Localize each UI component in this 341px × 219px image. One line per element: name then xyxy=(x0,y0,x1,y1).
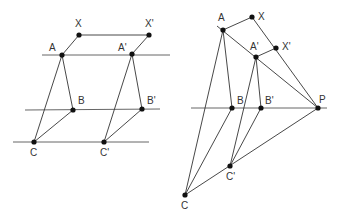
point-a xyxy=(220,27,225,32)
point-p xyxy=(315,105,320,110)
point-ap xyxy=(129,51,134,56)
segment-a-c xyxy=(34,55,62,142)
point-label-a: A xyxy=(49,42,56,53)
segment-ap-bp xyxy=(132,54,142,109)
point-xp xyxy=(273,45,278,50)
point-label-x: X xyxy=(75,18,82,29)
segment-b-c xyxy=(185,108,232,195)
point-a xyxy=(59,52,64,57)
point-b xyxy=(229,105,234,110)
right-diagram-central-projection: AXA'X'BB'PC'C xyxy=(181,11,327,211)
diagram-stage: XX'AA'BB'CC' AXA'X'BB'PC'C xyxy=(0,0,341,219)
segment-a-x xyxy=(223,17,252,30)
point-label-b: B xyxy=(237,95,244,106)
perspective-diagram: XX'AA'BB'CC' AXA'X'BB'PC'C xyxy=(0,0,341,219)
point-ap xyxy=(253,54,258,59)
point-label-xp: X' xyxy=(282,41,291,52)
point-label-cp: C' xyxy=(100,147,109,158)
point-cp xyxy=(227,163,232,168)
segment-ap-cp xyxy=(104,54,132,142)
segment-ap-cp xyxy=(230,57,256,166)
point-c xyxy=(31,139,36,144)
segment-a-b xyxy=(223,30,232,108)
segment-c-p xyxy=(185,108,318,195)
point-label-bp: B' xyxy=(265,95,274,106)
point-label-p: P xyxy=(319,94,326,105)
segment-ap-xp xyxy=(256,48,276,57)
point-x xyxy=(76,32,81,37)
segment-x-a xyxy=(62,35,79,55)
point-label-b: B xyxy=(78,95,85,106)
point-bp xyxy=(258,105,263,110)
point-label-xp: X' xyxy=(145,18,154,29)
point-label-bp: B' xyxy=(147,95,156,106)
segment-a-b xyxy=(62,55,73,110)
left-diagram-parallel-translation: XX'AA'BB'CC' xyxy=(13,18,170,158)
point-xp xyxy=(146,32,151,37)
point-x xyxy=(249,14,254,19)
segment-bp-cp xyxy=(230,108,261,166)
segment-xp-ap xyxy=(132,35,149,54)
point-label-ap: A' xyxy=(118,42,127,53)
point-b xyxy=(70,107,75,112)
point-label-x: X xyxy=(258,11,265,22)
point-label-ap: A' xyxy=(250,41,259,52)
point-label-c: C xyxy=(30,147,37,158)
segment-ap-bp xyxy=(256,57,261,108)
segment-a-c xyxy=(185,30,223,195)
segment-b-c xyxy=(34,110,73,142)
point-label-a: A xyxy=(218,12,225,23)
point-cp xyxy=(101,139,106,144)
point-label-c: C xyxy=(181,200,188,211)
point-c xyxy=(182,192,187,197)
point-label-cp: C' xyxy=(226,171,235,182)
point-bp xyxy=(139,106,144,111)
